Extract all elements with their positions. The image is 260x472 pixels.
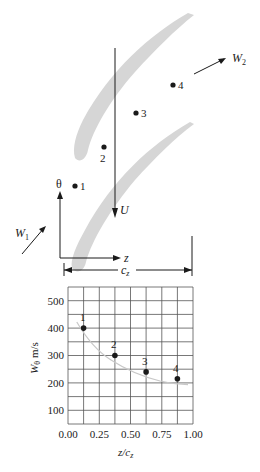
u-label: U — [120, 203, 130, 217]
chart-point-1: 1 — [80, 311, 86, 331]
z-arrow-head-icon — [113, 255, 121, 261]
chart-point-3: 3 — [142, 355, 149, 375]
cz-left-arrow-icon — [64, 267, 72, 273]
lower-blade — [72, 122, 194, 271]
station-point-4: 4 — [170, 79, 184, 91]
svg-text:2: 2 — [100, 152, 106, 164]
u-arrow-head-icon — [112, 208, 118, 218]
svg-text:100: 100 — [48, 404, 65, 416]
cz-right-arrow-icon — [184, 267, 192, 273]
svg-text:0.00: 0.00 — [58, 428, 78, 440]
svg-text:4: 4 — [178, 79, 184, 91]
svg-text:1: 1 — [80, 311, 86, 323]
svg-text:200: 200 — [48, 377, 65, 389]
theta-arrow-head-icon — [57, 191, 63, 199]
w1-label: W1 — [15, 226, 29, 242]
svg-text:400: 400 — [48, 322, 65, 334]
svg-text:300: 300 — [48, 349, 65, 361]
svg-text:2: 2 — [111, 338, 117, 350]
theta-label: θ — [56, 177, 62, 191]
station-point-2: 2 — [100, 144, 107, 164]
chart: 1 2 3 4 500 400 300 200 100 0.00 0.25 0.… — [28, 287, 203, 460]
station-point-3: 3 — [133, 107, 147, 119]
chart-point-4: 4 — [173, 362, 180, 382]
svg-text:1: 1 — [80, 180, 86, 192]
trend-curve — [77, 322, 188, 385]
svg-text:4: 4 — [173, 362, 179, 374]
svg-text:0.50: 0.50 — [121, 428, 141, 440]
svg-text:1.00: 1.00 — [183, 428, 203, 440]
svg-text:3: 3 — [141, 107, 147, 119]
svg-text:3: 3 — [142, 355, 148, 367]
x-tick-labels: 0.00 0.25 0.50 0.75 1.00 — [58, 428, 203, 440]
station-point-1: 1 — [72, 180, 85, 192]
svg-text:0.75: 0.75 — [152, 428, 172, 440]
svg-text:500: 500 — [48, 295, 65, 307]
svg-text:0.25: 0.25 — [90, 428, 110, 440]
chart-grid — [68, 287, 193, 424]
y-axis-title: Wθ m/s — [28, 342, 42, 374]
blade-flow-figure: U W2 W1 θ z cz 1 2 3 4 — [0, 0, 260, 472]
w2-label: W2 — [232, 51, 246, 67]
x-axis-title: z/cz — [117, 446, 134, 460]
y-tick-labels: 500 400 300 200 100 — [48, 295, 65, 417]
